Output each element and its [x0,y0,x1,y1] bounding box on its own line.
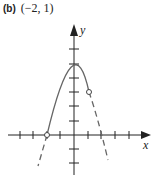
parabola-dashed-left [38,135,47,166]
parabola-graph: x y [0,0,152,175]
parabola-dashed-right [89,92,108,160]
y-axis-arrow-icon [70,24,78,36]
y-axis-label: y [79,23,86,37]
open-point-right [87,90,92,95]
open-point-left [45,133,50,138]
parabola-solid [47,65,89,135]
x-axis-label: x [142,138,149,152]
